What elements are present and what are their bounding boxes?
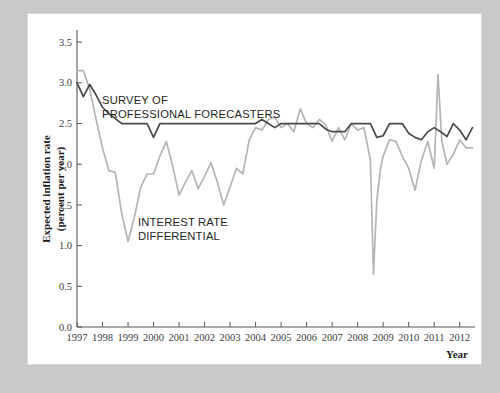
- y-axis-title: Expected inflation rate (percent per yea…: [40, 135, 67, 243]
- y-tick-label: 2.5: [59, 118, 72, 129]
- y-tick-label: 0.5: [59, 281, 72, 292]
- x-axis-title: Year: [446, 348, 468, 360]
- y-tick-label: 3.5: [59, 37, 72, 48]
- x-tick-label: 1998: [92, 332, 113, 343]
- x-tick-label: 2006: [296, 332, 317, 343]
- x-tick-label: 2011: [424, 332, 445, 343]
- survey-annotation: SURVEY OF PROFESSIONAL FORECASTERS: [102, 94, 280, 120]
- x-tick-label: 2004: [245, 332, 267, 343]
- x-tick-label: 1997: [67, 332, 88, 343]
- differential-annotation: INTEREST RATE DIFFERENTIAL: [138, 216, 228, 242]
- x-tick-label: 1999: [118, 332, 139, 343]
- x-tick-label: 2010: [398, 332, 419, 343]
- x-tick-label: 2002: [194, 332, 215, 343]
- differential-annotation-line1: INTEREST RATE: [138, 216, 228, 228]
- y-tick-label: 3.0: [59, 77, 72, 88]
- plot-area: Expected inflation rate (percent per yea…: [28, 14, 483, 366]
- survey-annotation-line2: PROFESSIONAL FORECASTERS: [102, 108, 280, 120]
- inflation-chart-svg: Expected inflation rate (percent per yea…: [28, 14, 483, 366]
- y-tick-label: 2.0: [59, 159, 72, 170]
- y-tick-label: 1.0: [59, 240, 72, 251]
- x-tick-label: 2007: [322, 332, 343, 343]
- x-tick-label: 2008: [347, 332, 368, 343]
- x-tick-label: 2000: [143, 332, 164, 343]
- x-tick-label: 2005: [271, 332, 292, 343]
- x-axis-ticks: 1997199819992000200120022003200420052006…: [67, 322, 471, 343]
- y-axis-title-line1: Expected inflation rate: [40, 135, 52, 243]
- chart-card: Expected inflation rate (percent per yea…: [27, 13, 482, 365]
- y-tick-label: 0.0: [59, 322, 72, 333]
- x-tick-label: 2009: [373, 332, 394, 343]
- x-tick-label: 2001: [169, 332, 190, 343]
- survey-annotation-line1: SURVEY OF: [102, 94, 168, 106]
- x-tick-label: 2012: [449, 332, 470, 343]
- differential-annotation-line2: DIFFERENTIAL: [138, 230, 220, 242]
- figure-page: Expected inflation rate (percent per yea…: [0, 0, 500, 393]
- x-tick-label: 2003: [220, 332, 241, 343]
- y-tick-label: 1.5: [59, 200, 72, 211]
